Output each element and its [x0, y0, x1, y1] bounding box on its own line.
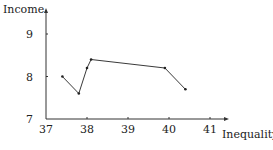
data-point [86, 67, 89, 70]
x-axis-label: Inequality [222, 128, 273, 141]
data-point [78, 92, 81, 95]
y-tick-label: 9 [26, 28, 33, 41]
x-ticks: 3738394041 [39, 117, 217, 136]
y-ticks: 789 [26, 28, 48, 126]
y-tick-label: 8 [26, 71, 33, 84]
series-line [62, 60, 185, 94]
data-point [61, 75, 64, 78]
data-point [164, 67, 167, 70]
y-axis-label: Income [3, 3, 44, 16]
y-axis-arrow-icon [44, 8, 48, 13]
y-tick-label: 7 [26, 113, 33, 126]
data-point [90, 58, 93, 61]
x-axis-arrow-icon [224, 117, 229, 121]
x-tick-label: 39 [121, 123, 135, 136]
x-tick-label: 37 [39, 123, 53, 136]
data-series [61, 58, 187, 95]
x-tick-label: 38 [80, 123, 94, 136]
line-chart: 3738394041 789 Income Inequality [0, 0, 273, 150]
data-point [184, 88, 187, 91]
x-tick-label: 41 [203, 123, 217, 136]
x-tick-label: 40 [162, 123, 176, 136]
